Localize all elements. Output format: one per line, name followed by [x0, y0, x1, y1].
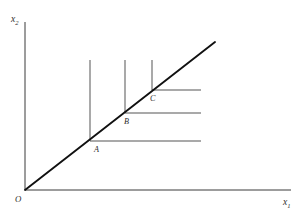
isoquant-a-group [90, 60, 201, 141]
point-label-b: B [124, 117, 129, 126]
isoquant-b-group [125, 60, 201, 113]
y-axis-label: x2 [10, 14, 19, 26]
origin-label: O [15, 194, 22, 204]
point-label-c: C [150, 94, 156, 103]
figure-canvas: O x2 x1 A B C [0, 0, 302, 216]
x-axis-label: x1 [282, 197, 291, 209]
y-axis-label-subscript: 2 [15, 19, 19, 26]
isoquant-figure: O x2 x1 A B C [0, 0, 302, 216]
point-label-a: A [93, 145, 100, 154]
x-axis-label-subscript: 1 [287, 202, 290, 209]
expansion-path-ray [25, 42, 215, 190]
axes-group [25, 22, 291, 190]
